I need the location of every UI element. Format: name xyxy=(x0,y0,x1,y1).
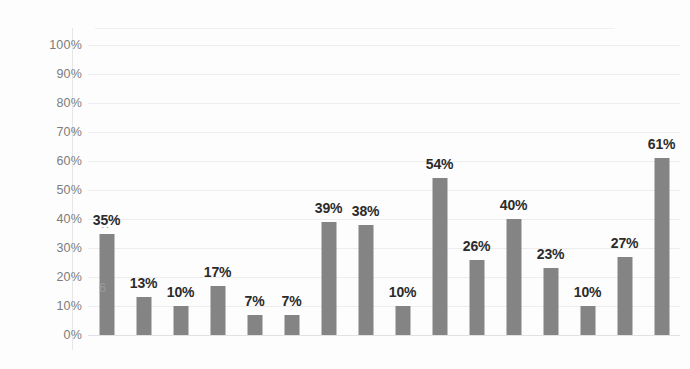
bar-slot[interactable]: 10% xyxy=(384,45,421,335)
bar-slot[interactable]: 10% xyxy=(569,45,606,335)
scan-noise-line xyxy=(95,28,615,29)
bar[interactable] xyxy=(543,268,558,335)
bar-slot[interactable]: 10% xyxy=(162,45,199,335)
bar-slot[interactable]: 13% xyxy=(125,45,162,335)
bar-slot[interactable]: 7% xyxy=(236,45,273,335)
bar-slot[interactable]: 23% xyxy=(532,45,569,335)
bar-value-label: 26% xyxy=(463,238,490,254)
bar-value-label: 61% xyxy=(648,136,675,152)
y-axis-labels: 0%10%20%30%40%50%60%70%80%90%100% xyxy=(20,0,82,369)
bar-slot[interactable]: 17% xyxy=(199,45,236,335)
bar-value-label: 38% xyxy=(352,203,379,219)
bar[interactable] xyxy=(506,219,521,335)
y-tick-label: 80% xyxy=(20,97,82,110)
y-tick-label: 0% xyxy=(20,329,82,342)
bar-value-label: 39% xyxy=(315,200,342,216)
y-tick-label: 100% xyxy=(20,39,82,52)
bar-value-label: 40% xyxy=(500,197,527,213)
y-tick-label: 70% xyxy=(20,126,82,139)
bar[interactable] xyxy=(136,297,151,335)
bar[interactable] xyxy=(469,260,484,335)
bar[interactable] xyxy=(321,222,336,335)
y-tick-label: 10% xyxy=(20,300,82,313)
bar-slot[interactable]: 7% xyxy=(273,45,310,335)
bar-value-label: 10% xyxy=(574,284,601,300)
y-tick-label: 20% xyxy=(20,271,82,284)
bar-slot[interactable]: 26% xyxy=(458,45,495,335)
bar-chart: 0%10%20%30%40%50%60%70%80%90%100% 35%13%… xyxy=(0,0,690,369)
bar[interactable] xyxy=(432,178,447,335)
bar[interactable] xyxy=(654,158,669,335)
y-tick-label: 50% xyxy=(20,184,82,197)
bar-value-label: 10% xyxy=(389,284,416,300)
bar-value-label: 23% xyxy=(537,246,564,262)
y-tick-label: 30% xyxy=(20,242,82,255)
bar-value-label: 7% xyxy=(245,293,265,309)
bar[interactable] xyxy=(617,257,632,335)
bar-slot[interactable]: 40% xyxy=(495,45,532,335)
bar[interactable] xyxy=(580,306,595,335)
bar[interactable] xyxy=(173,306,188,335)
bar[interactable] xyxy=(210,286,225,335)
y-tick-label: 90% xyxy=(20,68,82,81)
bar[interactable] xyxy=(395,306,410,335)
bar-value-label: 13% xyxy=(130,275,157,291)
bar-value-label: 10% xyxy=(167,284,194,300)
y-tick-label: 60% xyxy=(20,155,82,168)
bar-value-label: 54% xyxy=(426,156,453,172)
gridline xyxy=(88,335,680,336)
y-tick-label: 40% xyxy=(20,213,82,226)
bar-value-label: 17% xyxy=(204,264,231,280)
bar-value-label: 27% xyxy=(611,235,638,251)
bar[interactable] xyxy=(358,225,373,335)
bar[interactable] xyxy=(247,315,262,335)
scan-artifact-six: 6 xyxy=(99,281,106,294)
bar-slot[interactable]: 38% xyxy=(347,45,384,335)
bar-slot[interactable]: 54% xyxy=(421,45,458,335)
bar[interactable] xyxy=(284,315,299,335)
bar-slot[interactable]: 27% xyxy=(606,45,643,335)
scan-artifact-dots: : xyxy=(100,226,111,229)
bar-slot[interactable]: 39% xyxy=(310,45,347,335)
bar-value-label: 7% xyxy=(282,293,302,309)
bar-slot[interactable]: 61% xyxy=(643,45,680,335)
bar-slot[interactable]: 35% xyxy=(88,45,125,335)
plot-area: 35%13%10%17%7%7%39%38%10%54%26%40%23%10%… xyxy=(88,45,680,335)
